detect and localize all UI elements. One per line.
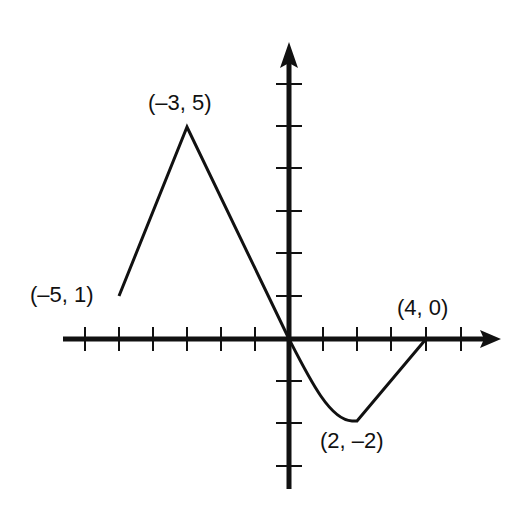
y-axis [276,42,302,489]
graph-canvas: (–5, 1) (–3, 5) (4, 0) (2, –2) [0,0,521,518]
function-curve [119,127,426,421]
function-graph: (–5, 1) (–3, 5) (4, 0) (2, –2) [0,0,521,518]
label-peak-point: (–3, 5) [148,90,212,115]
x-axis [63,327,501,351]
label-end-point: (4, 0) [397,295,448,320]
label-start-point: (–5, 1) [30,282,94,307]
label-min-point: (2, –2) [320,428,384,453]
